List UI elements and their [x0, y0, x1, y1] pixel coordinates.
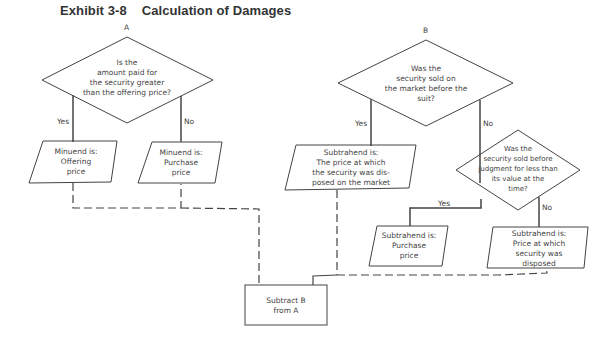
question-b2: Was the security sold before judgment fo… [463, 144, 573, 194]
minuend-purchase-text: Minuend is: Purchase price [144, 148, 218, 178]
subtrahend-purchase-text: Subtrahend is: Purchase price [374, 231, 444, 261]
branch-b-label: B [423, 26, 428, 35]
minuend-offering-text: Minuend is: Offering price [40, 147, 112, 177]
subtract-text: Subtract B from A [245, 296, 327, 316]
branch-a-label: A [124, 23, 129, 32]
question-a: Is the amount paid for the security grea… [62, 58, 192, 98]
b2-no-label: No [542, 203, 552, 212]
b-no-label: No [483, 119, 493, 128]
b-yes-label: Yes [355, 119, 367, 128]
question-b: Was the security sold on the market befo… [361, 64, 491, 104]
a-yes-label: Yes [57, 117, 69, 126]
a-no-label: No [184, 117, 194, 126]
subtrahend-market-text: Subtrahend is: The price at which the se… [292, 148, 410, 188]
b2-yes-label: Yes [438, 199, 450, 208]
subtrahend-disposed-text: Subtrahend is: Price at which security w… [494, 229, 584, 269]
